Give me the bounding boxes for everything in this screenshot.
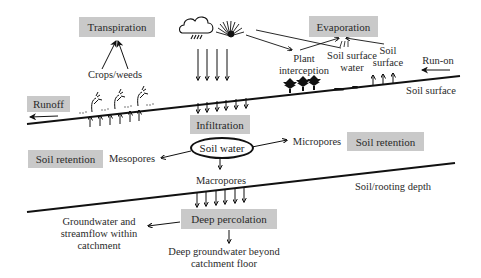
crop-plant-icon xyxy=(92,86,148,112)
sprinkler-irrigation-icon xyxy=(216,21,244,37)
deep-groundwater-beyond-label: Deep groundwater beyond catchment floor xyxy=(160,246,288,270)
tree-icon xyxy=(283,75,321,93)
soil-water-node: Soil water xyxy=(190,137,254,159)
surface-residue-dots xyxy=(79,103,154,114)
runoff-box: Runoff xyxy=(27,96,70,112)
soil-surface-label: Soil surface xyxy=(401,85,461,97)
run-on-label: Run-on xyxy=(415,55,461,67)
micropores-arrow xyxy=(252,140,287,147)
soil-retention-left-box: Soil retention xyxy=(28,150,103,168)
infiltration-box: Infiltration xyxy=(190,115,250,134)
cloud-rain-icon xyxy=(180,17,213,39)
evaporation-box: Evaporation xyxy=(309,16,378,37)
transpiration-arrows xyxy=(102,41,128,69)
soil-rooting-depth-label: Soil/rooting depth xyxy=(350,181,436,193)
soil-water-diagram: Transpiration Evaporation Runoff Infiltr… xyxy=(0,0,481,278)
soil-surface-evap-label: Soil surface xyxy=(367,45,409,69)
precipitation-arrows xyxy=(198,49,227,80)
crops-weeds-label: Crops/weeds xyxy=(80,69,150,81)
groundwater-within-label: Groundwater and streamflow within catchm… xyxy=(56,216,142,252)
runoff-arrow xyxy=(30,116,58,117)
groundwater-within-arrow xyxy=(148,222,180,226)
mesopores-arrow xyxy=(161,151,191,158)
soil-retention-right-box: Soil retention xyxy=(347,132,424,151)
mesopores-label: Mesopores xyxy=(106,153,158,165)
micropores-label: Micropores xyxy=(290,136,344,148)
deep-percolation-box: Deep percolation xyxy=(181,209,277,229)
macropores-label: Macropores xyxy=(190,175,252,187)
transpiration-box: Transpiration xyxy=(79,17,155,37)
